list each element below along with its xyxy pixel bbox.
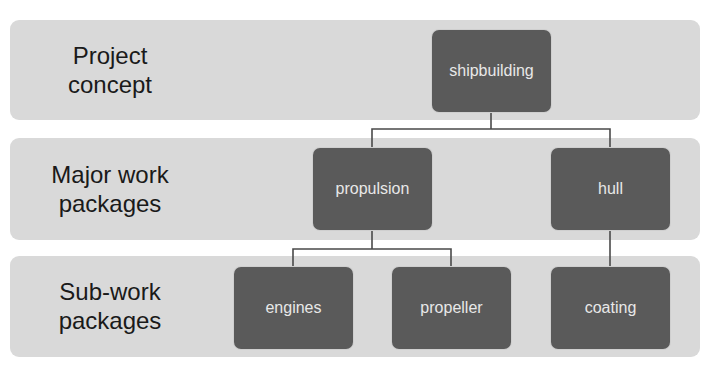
node-hull[interactable]: hull [551,148,670,230]
level-label-sub-work-packages: Sub-work packages [10,277,210,335]
node-propulsion[interactable]: propulsion [313,148,432,230]
node-label: engines [265,299,321,317]
level-label-line: concept [10,70,210,99]
node-label: propulsion [336,180,410,198]
node-label: shipbuilding [449,62,534,80]
level-band-project-concept: Project concept [10,20,700,120]
level-label-line: packages [10,306,210,335]
node-label: coating [585,299,637,317]
level-label-line: Project [10,41,210,70]
node-shipbuilding[interactable]: shipbuilding [432,30,551,112]
level-label-line: Major work [10,160,210,189]
level-label-line: packages [10,189,210,218]
level-label-project-concept: Project concept [10,41,210,99]
node-label: propeller [420,299,482,317]
node-propeller[interactable]: propeller [392,267,511,349]
level-label-line: Sub-work [10,277,210,306]
node-label: hull [598,180,623,198]
node-coating[interactable]: coating [551,267,670,349]
node-engines[interactable]: engines [234,267,353,349]
level-label-major-work-packages: Major work packages [10,160,210,218]
